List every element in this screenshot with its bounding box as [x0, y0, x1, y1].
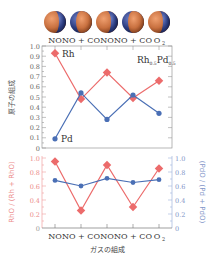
pd-marker: [156, 111, 161, 116]
top-y-tick-labels: 1.0 0.9 0.8 0.7 0.6 0.5 0.4 0.3 0.2 0.1 …: [30, 43, 40, 153]
category-label: O: [154, 36, 161, 45]
bottom-left-y-axis-title: RhO / (Rh + RhO): [8, 161, 16, 223]
sphere-icon: [122, 11, 144, 33]
pd-marker: [78, 90, 83, 95]
tick-label: 0.2: [30, 211, 40, 219]
tick-label: 0.4: [30, 197, 40, 205]
tick-label: 0.5: [30, 94, 40, 102]
pd-marker: [52, 136, 57, 141]
tick-label: 0.9: [30, 53, 40, 61]
bottom-right-tick-labels: 1.0 0.8 0.6 0.4 0.2 0: [175, 155, 185, 233]
category-label: NO: [48, 36, 62, 45]
rho-marker: [77, 206, 85, 214]
category-label: NO: [100, 232, 114, 241]
tick-label: 0.4: [30, 104, 40, 112]
tick-label: 0.3: [30, 114, 40, 122]
rh-marker: [51, 49, 59, 57]
tick-label: 0.6: [175, 183, 185, 191]
rho-marker: [155, 164, 163, 172]
rh-label: Rh: [62, 49, 75, 59]
title-sub: 0.5: [169, 61, 176, 66]
rho-marker: [51, 157, 59, 165]
pd-label: Pd: [61, 134, 73, 144]
title-pd: Pd: [157, 55, 169, 65]
svg-text:Rh0.5Pd0.5: Rh0.5Pd0.5: [137, 55, 176, 66]
category-label: NO + CO: [114, 36, 152, 45]
pd-marker: [104, 117, 109, 122]
tick-label: 0.7: [30, 73, 40, 81]
tick-label: 0: [175, 225, 179, 233]
tick-label: 0.8: [30, 169, 40, 177]
category-label: NO: [48, 232, 62, 241]
bottom-x-axis-title: ガスの組成: [90, 245, 125, 254]
rho-marker: [129, 203, 137, 211]
tick-label: 0.8: [30, 63, 40, 71]
category-label: NO + CO: [62, 36, 100, 45]
bottom-x-labels: NO NO + CO NO NO + CO O 2: [48, 232, 165, 242]
tick-label: 0.6: [30, 83, 40, 91]
tick-label: 1.0: [175, 155, 185, 163]
rho-marker: [103, 161, 111, 169]
tick-label: 0: [36, 225, 40, 233]
top-x-labels: NO NO + CO NO NO + CO O 2: [48, 36, 165, 46]
pdo-marker: [105, 176, 110, 181]
category-label: NO: [100, 36, 114, 45]
series-pd: Pd: [52, 90, 161, 144]
category-label: O: [154, 232, 161, 241]
tick-label: 1.0: [30, 43, 40, 51]
rh-marker: [155, 76, 163, 84]
pd-marker: [130, 92, 135, 97]
bottom-right-y-axis-title: (PdO / (Pd + PdO): [198, 161, 206, 224]
tick-label: 0: [36, 145, 40, 153]
sphere-icon: [148, 11, 170, 33]
subscript: 2: [162, 40, 165, 46]
tick-label: 1.0: [30, 155, 40, 163]
tick-label: 0.2: [30, 124, 40, 132]
series-rho-ratio: [51, 157, 163, 214]
sphere-icon: [96, 11, 118, 33]
pdo-marker: [157, 177, 162, 182]
tick-label: 0.6: [30, 183, 40, 191]
pdo-marker: [131, 180, 136, 185]
tick-label: 0.8: [175, 169, 185, 177]
category-label: NO + CO: [114, 232, 152, 241]
title-rh: Rh: [137, 55, 150, 65]
alloy-title: Rh0.5Pd0.5: [137, 55, 176, 66]
tick-label: 0.4: [175, 197, 185, 205]
top-y-axis-title: 原子の組成: [7, 80, 16, 115]
pdo-marker: [53, 178, 58, 183]
tick-label: 0.2: [175, 211, 185, 219]
chart-root: NO NO + CO NO NO + CO O 2: [0, 0, 214, 260]
bottom-panel: 1.0 0.8 0.6 0.4 0.2 0 1.0 0.8 0.6 0.4 0.…: [8, 155, 206, 255]
bottom-left-tick-labels: 1.0 0.8 0.6 0.4 0.2 0: [30, 155, 40, 233]
top-panel: 1.0 0.9 0.8 0.7 0.6 0.5 0.4 0.3 0.2 0.1 …: [7, 43, 176, 153]
pdo-marker: [79, 184, 84, 189]
sphere-row: [44, 11, 170, 33]
sphere-icon: [70, 11, 92, 33]
category-label: NO + CO: [62, 232, 100, 241]
sphere-icon: [44, 11, 66, 33]
subscript: 2: [162, 236, 165, 242]
tick-label: 0.1: [30, 134, 40, 142]
